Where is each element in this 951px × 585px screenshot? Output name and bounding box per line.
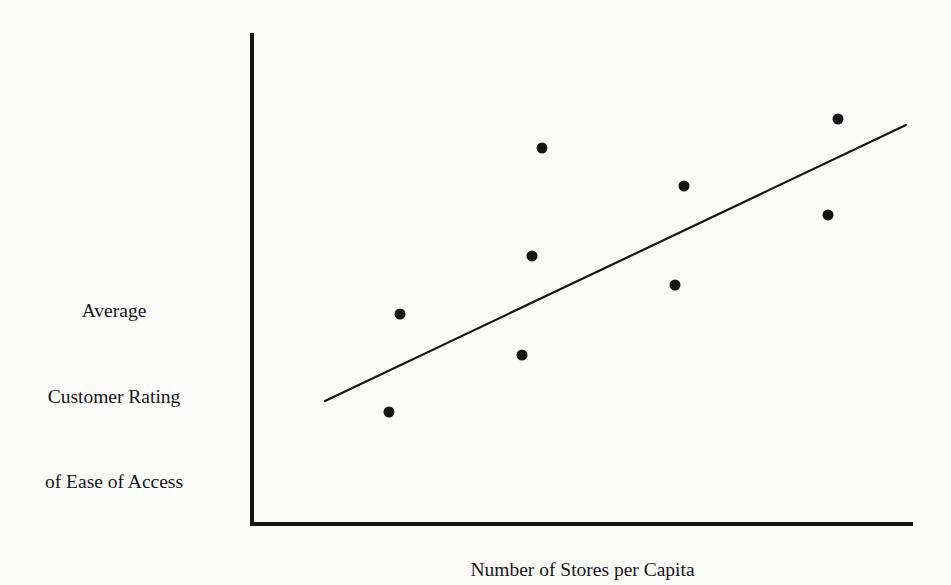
y-axis-label-line-2: Customer Rating: [0, 383, 228, 412]
data-point-group: [384, 114, 844, 418]
trend-line: [325, 125, 906, 401]
data-point: [517, 350, 528, 361]
data-point: [527, 251, 538, 262]
scatter-plot-figure: Average Customer Rating of Ease of Acces…: [0, 0, 951, 585]
y-axis-label-line-3: of Ease of Access: [0, 468, 228, 497]
data-point: [670, 280, 681, 291]
x-axis-label: Number of Stores per Capita: [252, 556, 913, 585]
data-point: [384, 407, 395, 418]
data-point: [823, 210, 834, 221]
data-point: [537, 143, 548, 154]
y-axis-label-line-1: Average: [0, 297, 228, 326]
data-point: [679, 181, 690, 192]
y-axis-label: Average Customer Rating of Ease of Acces…: [0, 240, 228, 554]
data-point: [395, 309, 406, 320]
data-point: [833, 114, 844, 125]
